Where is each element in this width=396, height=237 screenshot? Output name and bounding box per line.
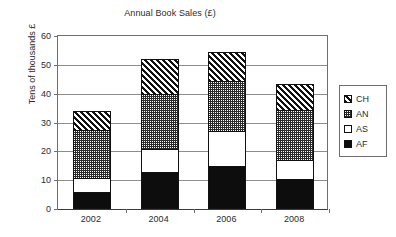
bar-segment-ch[interactable] — [276, 84, 314, 111]
chart-title: Annual Book Sales (£) — [0, 8, 340, 18]
x-axis-tick-mark — [126, 209, 127, 213]
legend-item-ch[interactable]: CH — [344, 91, 383, 106]
legend-label: AN — [356, 109, 369, 119]
bar-segment-af[interactable] — [208, 166, 246, 209]
x-axis-tick-mark — [261, 209, 262, 213]
stacked-bar[interactable] — [208, 52, 246, 209]
legend-swatch-as — [344, 125, 352, 133]
bar-segment-as[interactable] — [276, 160, 314, 180]
y-axis-tick-label: 60 — [4, 31, 58, 41]
y-axis-tick-label: 20 — [4, 146, 58, 156]
x-axis-tick-mark — [329, 209, 330, 213]
x-axis-tick-label: 2002 — [56, 214, 126, 224]
legend-item-af[interactable]: AF — [344, 136, 383, 151]
bar-segment-af[interactable] — [141, 172, 179, 209]
legend-swatch-an — [344, 110, 352, 118]
x-axis-tick-label: 2004 — [124, 214, 194, 224]
gridline — [58, 65, 327, 66]
stacked-bar[interactable] — [73, 111, 111, 209]
bar-segment-an[interactable] — [141, 94, 179, 150]
legend-item-as[interactable]: AS — [344, 121, 383, 136]
legend-label: AF — [356, 139, 368, 149]
y-axis-tick-label: 0 — [4, 204, 58, 214]
bar-segment-as[interactable] — [141, 149, 179, 172]
chart-container: Annual Book Sales (£) Tens of thousands … — [0, 0, 396, 237]
y-axis-tick-label: 50 — [4, 60, 58, 70]
bar-segment-ch[interactable] — [73, 111, 111, 131]
bar-segment-an[interactable] — [276, 110, 314, 160]
legend-label: CH — [356, 94, 369, 104]
x-axis-tick-label: 2006 — [191, 214, 261, 224]
y-axis-tick-label: 40 — [4, 89, 58, 99]
bar-segment-an[interactable] — [73, 130, 111, 179]
legend-swatch-af — [344, 140, 352, 148]
y-axis-tick-label: 30 — [4, 118, 58, 128]
bar-segment-af[interactable] — [73, 192, 111, 209]
x-axis-tick-mark — [194, 209, 195, 213]
bar-segment-af[interactable] — [276, 179, 314, 209]
stacked-bar[interactable] — [141, 59, 179, 209]
bar-segment-as[interactable] — [208, 131, 246, 167]
y-axis-tick-label: 10 — [4, 175, 58, 185]
bar-segment-as[interactable] — [73, 178, 111, 192]
legend-item-an[interactable]: AN — [344, 106, 383, 121]
legend-label: AS — [356, 124, 368, 134]
plot-area: 0102030405060 — [57, 35, 328, 210]
legend-swatch-ch — [344, 95, 352, 103]
stacked-bar[interactable] — [276, 84, 314, 209]
bar-segment-ch[interactable] — [141, 59, 179, 95]
bar-segment-ch[interactable] — [208, 52, 246, 82]
x-axis-tick-label: 2008 — [259, 214, 329, 224]
bar-segment-an[interactable] — [208, 81, 246, 131]
chart-legend: CHANASAF — [339, 85, 387, 157]
